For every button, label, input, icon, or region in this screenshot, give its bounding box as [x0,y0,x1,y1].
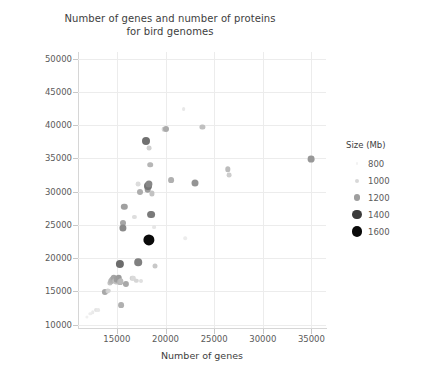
legend-marker-icon [346,226,368,237]
legend-dot [352,210,361,219]
data-point [132,215,136,219]
y-gridline [78,92,326,93]
legend-marker-icon [346,194,368,200]
size-legend: Size (Mb) 8001000120014001600 [346,140,424,240]
data-point [135,258,143,266]
data-point [308,156,315,163]
legend-label: 1600 [368,227,390,237]
y-gridline [78,225,326,226]
legend-entry: 1400 [346,206,424,223]
data-point [118,302,124,308]
data-point [226,173,231,178]
data-point [147,145,152,150]
y-tick-label: 30000 [45,187,72,197]
data-point [168,177,174,183]
y-tick-label: 40000 [45,120,72,130]
y-tick-label: 20000 [45,253,72,263]
legend-marker-icon [346,162,368,164]
x-tick-label: 25000 [191,334,237,344]
data-point [139,279,143,283]
data-point [123,281,129,287]
data-point [120,225,127,232]
y-gridline [78,192,326,193]
legend-marker-icon [346,210,368,219]
data-point [143,234,154,245]
x-tick-label: 20000 [143,334,189,344]
x-tick-label: 35000 [288,334,334,344]
x-gridline [117,52,118,328]
y-tick-label: 35000 [45,153,72,163]
data-point [96,308,100,312]
data-point [135,182,140,187]
legend-dot [354,194,360,200]
y-tick-mark [73,158,78,159]
y-gridline [78,158,326,159]
data-point [149,191,154,196]
legend-dot [355,179,359,183]
data-point [200,124,205,129]
legend-label: 1200 [368,193,390,203]
y-tick-mark [73,325,78,326]
data-point [183,236,187,240]
chart-title-line-2: for bird genomes [0,25,340,38]
legend-dot [356,162,358,164]
legend-entries: 8001000120014001600 [346,155,424,240]
data-point [85,315,88,318]
y-tick-label: 15000 [45,286,72,296]
data-point [142,137,150,145]
x-gridline [214,52,215,328]
data-point [192,180,199,187]
scatter-plot-figure: Number of genes and number of proteins f… [0,0,424,378]
y-tick-label: 10000 [45,320,72,330]
data-point [116,260,124,268]
y-tick-mark [73,192,78,193]
y-gridline [78,258,326,259]
y-gridline [78,59,326,60]
y-tick-mark [73,291,78,292]
data-point [153,264,158,269]
y-tick-label: 45000 [45,87,72,97]
legend-title: Size (Mb) [346,140,424,150]
data-point [152,225,156,229]
legend-entry: 1200 [346,189,424,206]
x-gridline [263,52,264,328]
chart-title-line-1: Number of genes and number of proteins [0,12,340,25]
x-tick-label: 15000 [94,334,140,344]
plot-area [78,52,326,328]
y-tick-label: 50000 [45,54,72,64]
data-point [137,189,143,195]
data-point [147,211,155,219]
data-point [182,107,186,111]
data-point [147,162,153,168]
x-gridline [311,52,312,328]
legend-marker-icon [346,179,368,183]
y-tick-mark [73,59,78,60]
y-tick-mark [73,258,78,259]
x-axis-line [78,328,327,329]
legend-label: 1400 [368,210,390,220]
y-gridline [78,291,326,292]
data-point [225,167,230,172]
legend-entry: 800 [346,155,424,172]
legend-entry: 1600 [346,223,424,240]
x-gridline [166,52,167,328]
data-point [121,204,127,210]
chart-title: Number of genes and number of proteins f… [0,12,340,38]
legend-entry: 1000 [346,172,424,189]
x-tick-label: 30000 [240,334,286,344]
y-tick-mark [73,125,78,126]
data-point [134,279,138,283]
data-point [163,126,169,132]
y-gridline [78,325,326,326]
legend-label: 800 [368,159,384,169]
y-tick-mark [73,225,78,226]
y-tick-mark [73,92,78,93]
y-tick-label: 25000 [45,220,72,230]
legend-dot [352,226,363,237]
legend-label: 1000 [368,176,390,186]
x-axis-label: Number of genes [78,350,326,361]
